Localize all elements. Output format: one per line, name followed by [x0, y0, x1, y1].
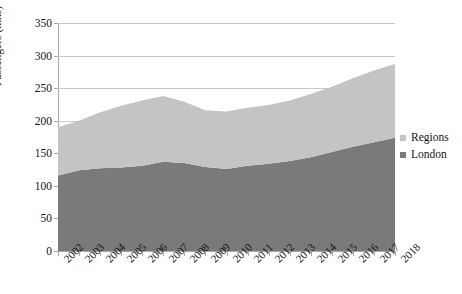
plot-area [58, 23, 395, 251]
legend-item[interactable]: London [400, 146, 449, 163]
y-axis-tick-label: 350 [6, 18, 52, 30]
x-axis-tick [311, 252, 312, 256]
x-axis-tick [269, 252, 270, 256]
x-axis-tick-label: 2018 [399, 257, 407, 265]
y-axis-tick-label: 50 [6, 213, 52, 225]
x-axis-tick [290, 252, 291, 256]
x-axis-tick [184, 252, 185, 256]
x-axis-tick-label: 2006 [146, 257, 154, 265]
area-chart: Passengers (mns) 050100150200250300350 2… [0, 0, 462, 294]
x-axis-tick [374, 252, 375, 256]
y-axis-tick-label: 150 [6, 148, 52, 160]
x-axis-tick-label: 2012 [273, 257, 281, 265]
x-axis-tick [248, 252, 249, 256]
legend-label: London [411, 149, 447, 161]
x-axis-tick [227, 252, 228, 256]
x-axis-tick [163, 252, 164, 256]
x-axis-tick-label: 2013 [294, 257, 302, 265]
y-axis-title: Passengers (mns) [0, 6, 3, 86]
x-axis-tick-label: 2014 [315, 257, 323, 265]
x-axis-tick-label: 2011 [252, 257, 260, 265]
x-axis-tick [395, 252, 396, 256]
x-axis-tick-label: 2010 [231, 257, 239, 265]
legend-swatch-icon [400, 152, 406, 158]
x-axis-tick [332, 252, 333, 256]
x-axis-tick [142, 252, 143, 256]
x-axis-tick [100, 252, 101, 256]
y-axis-tick-label: 300 [6, 51, 52, 63]
x-axis-tick-label: 2003 [83, 257, 91, 265]
x-axis-tick-label: 2009 [209, 257, 217, 265]
y-axis-tick-label: 200 [6, 116, 52, 128]
y-axis-tick-label: 100 [6, 181, 52, 193]
chart-legend: RegionsLondon [400, 129, 449, 163]
x-axis-tick-label: 2002 [62, 257, 70, 265]
x-axis-tick-label: 2004 [104, 257, 112, 265]
stacked-area-series [58, 23, 395, 251]
x-axis-tick-label: 2007 [167, 257, 175, 265]
legend-item[interactable]: Regions [400, 129, 449, 146]
x-axis-tick-label: 2005 [125, 257, 133, 265]
y-axis-tick-label: 250 [6, 83, 52, 95]
legend-label: Regions [411, 132, 449, 144]
x-axis-tick-label: 2017 [378, 257, 386, 265]
x-axis-tick-label: 2008 [188, 257, 196, 265]
x-axis-tick [121, 252, 122, 256]
x-axis-tick [353, 252, 354, 256]
y-axis-tick-label: 0 [6, 246, 52, 258]
x-axis-tick-label: 2015 [336, 257, 344, 265]
x-axis-tick-label: 2016 [357, 257, 365, 265]
x-axis-tick [58, 252, 59, 256]
x-axis-tick [79, 252, 80, 256]
legend-swatch-icon [400, 135, 406, 141]
x-axis-tick [205, 252, 206, 256]
